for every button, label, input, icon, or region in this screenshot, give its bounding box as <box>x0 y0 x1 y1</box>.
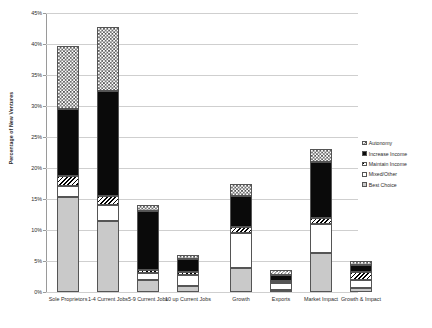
bar-10-up-current-jobs <box>177 255 199 292</box>
bar-segment-best-choice <box>350 288 372 292</box>
bar-sole-proprietors <box>57 46 79 292</box>
bar-segment-increase-income <box>310 162 332 218</box>
legend-item[interactable]: Maintain Income <box>362 159 432 169</box>
bar-segment-increase-income <box>230 196 252 227</box>
bar-segment-mixed-other <box>177 275 199 286</box>
bar-segment-maintain-income <box>57 176 79 186</box>
bar-segment-autonomy <box>230 184 252 196</box>
y-tick-mark <box>43 44 46 45</box>
y-tick-label: 35% <box>10 72 42 78</box>
bar-segment-mixed-other <box>57 186 79 197</box>
gridline <box>46 44 358 45</box>
gridline <box>46 13 358 14</box>
plot-area <box>46 13 358 292</box>
bar-segment-increase-income <box>97 91 119 196</box>
legend-label: Increase Income <box>369 151 407 157</box>
bar-growth-impact <box>350 261 372 292</box>
y-tick-label: 15% <box>10 196 42 202</box>
legend-label: Autonomy <box>369 140 392 146</box>
gridline <box>46 292 358 293</box>
y-tick-mark <box>43 75 46 76</box>
y-tick-label: 0% <box>10 289 42 295</box>
bar-exports <box>270 270 292 292</box>
bar-segment-maintain-income <box>350 272 372 281</box>
legend: AutonomyIncrease IncomeMaintain IncomeMi… <box>362 138 432 190</box>
gridline <box>46 137 358 138</box>
bar-segment-best-choice <box>230 268 252 292</box>
bar-segment-autonomy <box>57 46 79 109</box>
bar-market-impact <box>310 149 332 292</box>
bar-segment-mixed-other <box>310 224 332 253</box>
y-tick-mark <box>43 230 46 231</box>
x-tick-label: 10 up Current Jobs <box>165 296 211 303</box>
bar-segment-best-choice <box>270 290 292 292</box>
y-tick-mark <box>43 261 46 262</box>
legend-item[interactable]: Autonomy <box>362 138 432 148</box>
y-tick-mark <box>43 13 46 14</box>
x-tick-label: Growth & Impact <box>338 296 384 303</box>
legend-label: Best Choice <box>369 182 397 188</box>
y-tick-label: 20% <box>10 165 42 171</box>
y-tick-mark <box>43 168 46 169</box>
legend-swatch-mixed-other-icon <box>362 172 367 177</box>
legend-item[interactable]: Increase Income <box>362 148 432 158</box>
bar-segment-maintain-income <box>97 196 119 205</box>
bar-segment-increase-income <box>57 109 79 177</box>
bar-segment-mixed-other <box>97 205 119 221</box>
y-tick-label: 45% <box>10 10 42 16</box>
y-tick-mark <box>43 199 46 200</box>
bar-segment-autonomy <box>97 27 119 90</box>
bar-segment-increase-income <box>177 259 199 271</box>
y-tick-label: 10% <box>10 227 42 233</box>
legend-label: Mixed/Other <box>369 171 397 177</box>
legend-item[interactable]: Best Choice <box>362 180 432 190</box>
bar-segment-autonomy <box>310 149 332 161</box>
legend-swatch-maintain-income-icon <box>362 162 367 167</box>
y-tick-mark <box>43 292 46 293</box>
legend-label: Maintain Income <box>369 161 407 167</box>
bar-segment-best-choice <box>177 286 199 292</box>
bar-segment-mixed-other <box>230 233 252 268</box>
bar-segment-best-choice <box>57 197 79 292</box>
legend-swatch-best-choice-icon <box>362 182 367 187</box>
y-tick-label: 5% <box>10 258 42 264</box>
bar-segment-best-choice <box>137 280 159 292</box>
bar-segment-best-choice <box>97 221 119 292</box>
y-tick-mark <box>43 106 46 107</box>
legend-swatch-increase-income-icon <box>362 151 367 156</box>
y-tick-label: 40% <box>10 41 42 47</box>
y-tick-mark <box>43 137 46 138</box>
stacked-bar-chart: Percentage of New Ventures 0%5%10%15%20%… <box>0 0 432 328</box>
bar-segment-best-choice <box>310 253 332 292</box>
legend-swatch-autonomy-icon <box>362 141 367 146</box>
bar-segment-mixed-other <box>350 280 372 288</box>
y-tick-label: 25% <box>10 134 42 140</box>
legend-item[interactable]: Mixed/Other <box>362 169 432 179</box>
y-tick-label: 30% <box>10 103 42 109</box>
bar-5-9-current-jobs <box>137 205 159 292</box>
gridline <box>46 75 358 76</box>
bar-1-4-current-jobs <box>97 27 119 292</box>
bar-segment-increase-income <box>137 211 159 270</box>
gridline <box>46 106 358 107</box>
bar-growth <box>230 184 252 292</box>
